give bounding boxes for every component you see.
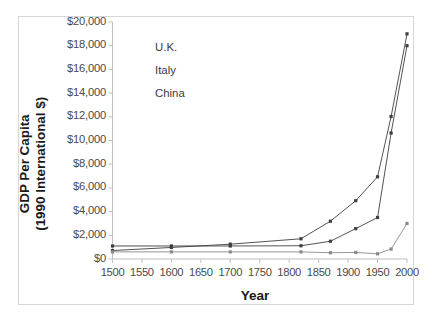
x-tick-label: 2000 [387, 266, 427, 278]
chart-axes [109, 22, 408, 263]
data-point [329, 240, 332, 243]
legend-item-label: China [155, 87, 185, 99]
data-point [229, 244, 232, 247]
data-point [299, 244, 302, 247]
y-tick-label: $20,000 [30, 15, 106, 27]
data-point [329, 220, 332, 223]
x-axis-title: Year [110, 288, 400, 303]
series-china [111, 222, 409, 256]
y-tick-label: $12,000 [30, 109, 106, 121]
data-point [405, 32, 408, 35]
data-point [329, 251, 332, 254]
y-tick-label: $10,000 [30, 133, 106, 145]
y-tick-label: $16,000 [30, 62, 106, 74]
y-tick-label: $8,000 [30, 157, 106, 169]
legend-marker-icon [133, 67, 153, 68]
y-tick-label: $4,000 [30, 204, 106, 216]
data-point [354, 199, 357, 202]
series-line [113, 223, 408, 253]
legend-marker-icon [133, 90, 153, 91]
y-tick-label: $0 [30, 252, 106, 264]
data-point [299, 237, 302, 240]
data-point [390, 115, 393, 118]
data-point [111, 250, 114, 253]
y-tick-label: $6,000 [30, 180, 106, 192]
data-point [376, 252, 379, 255]
data-point [111, 244, 114, 247]
data-point [170, 244, 173, 247]
y-tick-label: $14,000 [30, 86, 106, 98]
y-tick-label: $18,000 [30, 38, 106, 50]
data-point [376, 216, 379, 219]
data-point [390, 247, 393, 250]
data-point [170, 250, 173, 253]
legend-item-label: U.K. [155, 41, 177, 53]
data-point [376, 175, 379, 178]
data-point [354, 251, 357, 254]
y-tick-label: $2,000 [30, 228, 106, 240]
data-point [405, 222, 408, 225]
data-point [390, 131, 393, 134]
data-point [354, 227, 357, 230]
data-point [405, 44, 408, 47]
data-point [299, 250, 302, 253]
legend-item-label: Italy [155, 64, 176, 76]
legend-marker-icon [133, 44, 153, 45]
data-point [229, 250, 232, 253]
